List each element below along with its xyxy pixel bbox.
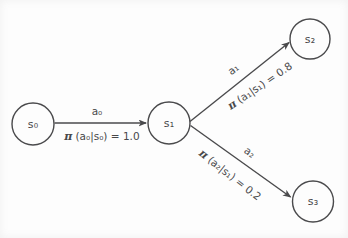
policy-diagram: s₀ s₁ s₂ s₃ a₀ π(a₀|s₀) = 1.0 a₁ π(a₁|s₁… [0,0,348,238]
policy-expression: (a₀|s₀) = 1.0 [75,130,139,142]
state-label-s3: s₃ [308,195,319,208]
state-label-s0: s₀ [28,118,39,131]
state-label-s2: s₂ [305,33,316,46]
pi-symbol: π [64,130,72,143]
action-label-a0: a₀ [92,105,103,117]
policy-label-a0-s0: π(a₀|s₀) = 1.0 [64,130,139,143]
state-label-s1: s₁ [164,117,175,130]
